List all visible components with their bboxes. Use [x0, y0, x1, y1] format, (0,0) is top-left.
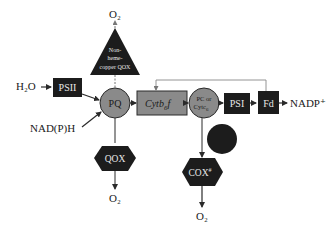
electron-transport-diagram: O₂ Non- heme- copper QOX H₂O PSII NAD(P)…	[0, 0, 335, 234]
o2-qox-output: O₂	[109, 192, 121, 204]
svg-text:Non-: Non-	[109, 47, 121, 53]
unlabeled-dark-circle-node	[207, 124, 237, 154]
svg-text:QOX: QOX	[105, 154, 126, 164]
svg-text:PQ: PQ	[109, 98, 123, 109]
svg-text:H₂O: H₂O	[16, 80, 36, 92]
svg-text:NAD(P)H: NAD(P)H	[30, 122, 75, 135]
nonheme-copper-qox-node: Non- heme- copper QOX	[90, 28, 140, 75]
svg-text:O₂: O₂	[196, 210, 208, 222]
svg-text:heme-: heme-	[108, 55, 123, 61]
svg-text:Fd: Fd	[263, 98, 274, 109]
o2-cox-output: O₂	[196, 210, 208, 222]
cytb6f-node: Cytb6f	[137, 91, 187, 115]
o2-top-output: O₂	[109, 8, 121, 20]
qox-node: QOX	[94, 146, 136, 171]
svg-text:COX#: COX#	[188, 167, 211, 178]
svg-text:NADP⁺: NADP⁺	[290, 97, 326, 109]
fd-node: Fd	[258, 91, 279, 114]
h2o-input: H₂O	[16, 80, 36, 92]
arrow-nadph-to-pq	[82, 112, 101, 127]
psii-node: PSII	[53, 78, 82, 97]
svg-text:O₂: O₂	[109, 192, 121, 204]
pq-node: PQ	[100, 88, 130, 118]
svg-text:PC or: PC or	[197, 95, 213, 102]
arrow-psii-to-pq	[82, 94, 99, 100]
svg-text:copper QOX: copper QOX	[100, 64, 131, 70]
svg-text:O₂: O₂	[109, 8, 121, 20]
nadph-input: NAD(P)H	[30, 122, 75, 135]
psi-node: PSI	[224, 93, 250, 114]
nadp-output: NADP⁺	[290, 97, 326, 109]
pc-cytc6-node: PC or Cytc6	[189, 88, 219, 118]
svg-text:PSII: PSII	[59, 82, 77, 93]
svg-text:PSI: PSI	[230, 98, 244, 109]
cox-node: COX#	[182, 158, 223, 186]
